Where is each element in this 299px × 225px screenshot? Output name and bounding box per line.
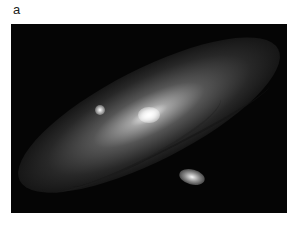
- galaxy-core: [138, 107, 160, 123]
- satellite-galaxy-upper: [95, 105, 105, 115]
- galaxy-photo: [11, 24, 287, 213]
- panel-label: a: [13, 3, 20, 17]
